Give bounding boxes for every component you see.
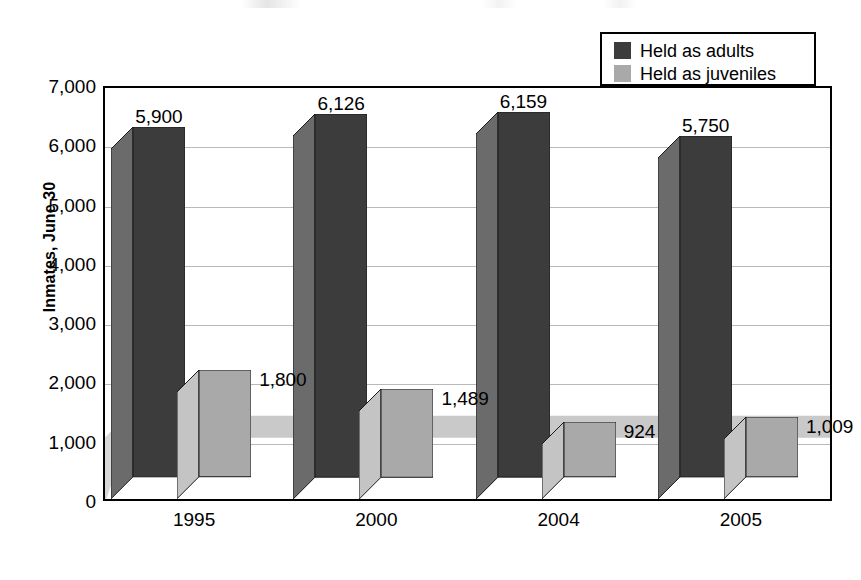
legend-item-adults: Held as adults <box>614 39 814 62</box>
x-tick-label-2004: 2004 <box>468 510 650 529</box>
x-tick-label-1995: 1995 <box>103 510 285 529</box>
y-axis-tick-labels: 7,0006,0005,0004,0003,0002,0001,0000 <box>16 0 96 580</box>
x-tick-label-2000: 2000 <box>285 510 467 529</box>
chart-legend: Held as adults Held as juveniles <box>600 32 816 86</box>
y-tick-label: 0 <box>24 492 96 511</box>
plot-area: 5,9001,8006,1261,4896,1599245,7501,009 <box>103 86 832 501</box>
bar-held-as-juveniles-1995 <box>199 392 251 499</box>
data-label-1995-juveniles: 1,800 <box>259 370 307 389</box>
chart-figure: Inmates, June 30 7,0006,0005,0004,0003,0… <box>0 0 861 580</box>
legend-label-juveniles: Held as juveniles <box>640 65 776 83</box>
y-tick-label: 1,000 <box>24 433 96 452</box>
bar-held-as-juveniles-2000 <box>381 411 433 499</box>
data-label-2004-adults: 6,159 <box>500 92 548 111</box>
scan-artifact <box>0 0 861 8</box>
y-tick-label: 7,000 <box>24 77 96 96</box>
y-tick-label: 4,000 <box>24 255 96 274</box>
x-tick-label-2005: 2005 <box>650 510 832 529</box>
legend-swatch-adults <box>614 42 631 59</box>
data-label-2004-juveniles: 924 <box>624 422 656 441</box>
data-label-1995-adults: 5,900 <box>135 107 183 126</box>
bar-held-as-juveniles-2004 <box>564 444 616 499</box>
data-label-2005-juveniles: 1,009 <box>806 417 854 436</box>
bar-held-as-juveniles-2005 <box>746 439 798 499</box>
data-label-2000-adults: 6,126 <box>317 94 365 113</box>
y-tick-label: 5,000 <box>24 196 96 215</box>
y-tick-label: 3,000 <box>24 314 96 333</box>
data-label-2005-adults: 5,750 <box>682 116 730 135</box>
legend-label-adults: Held as adults <box>640 42 754 60</box>
legend-item-juveniles: Held as juveniles <box>614 62 814 85</box>
y-tick-label: 6,000 <box>24 136 96 155</box>
y-tick-label: 2,000 <box>24 373 96 392</box>
legend-swatch-juveniles <box>614 65 631 82</box>
data-label-2000-juveniles: 1,489 <box>441 389 489 408</box>
